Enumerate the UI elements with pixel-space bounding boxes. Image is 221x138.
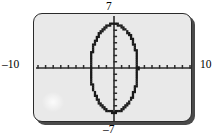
- curve-pixel: [138, 68, 140, 70]
- calculator-graph-figure: 7 –7 –10 10: [0, 0, 221, 138]
- x-max-label: 10: [200, 59, 212, 71]
- y-max-label: 7: [106, 1, 112, 13]
- plot-area: [34, 14, 191, 121]
- graph-canvas: [34, 14, 192, 122]
- axes: [36, 16, 191, 121]
- calculator-screen: [33, 13, 192, 122]
- x-min-label: –10: [2, 59, 19, 71]
- y-min-label: –7: [103, 124, 115, 136]
